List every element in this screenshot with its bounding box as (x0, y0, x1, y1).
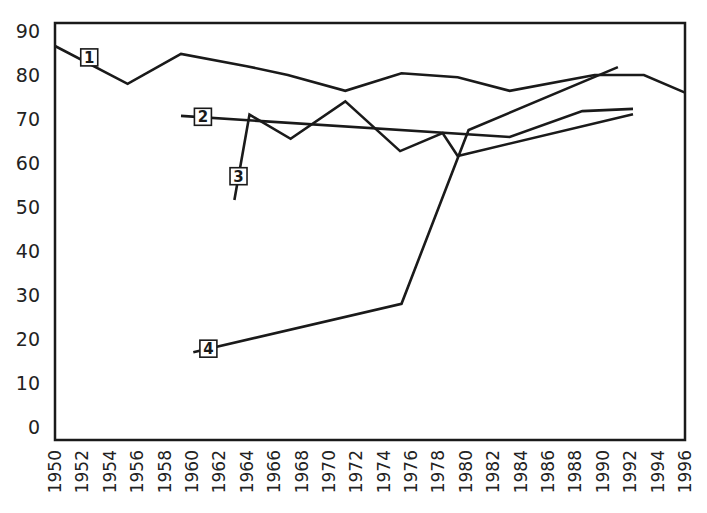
y-tick-label: 60 (16, 152, 40, 174)
y-tick-label: 10 (16, 372, 40, 394)
label-number: 2 (198, 108, 208, 126)
x-tick-label: 1950 (45, 450, 65, 493)
x-tick-label: 1974 (374, 450, 394, 493)
x-tick-label: 1952 (72, 450, 92, 493)
y-tick-label: 30 (16, 284, 40, 306)
line-chart: 0102030405060708090 19501952195419561958… (0, 0, 707, 513)
x-tick-label: 1956 (127, 450, 147, 493)
x-tick-label: 1980 (456, 450, 476, 493)
y-tick-label: 0 (28, 416, 40, 438)
y-tick-label: 90 (16, 20, 40, 42)
series-line-3 (234, 101, 633, 200)
x-tick-label: 1992 (620, 450, 640, 493)
x-tick-label: 1954 (100, 450, 120, 493)
x-tick-label: 1994 (648, 450, 668, 493)
x-tick-label: 1962 (209, 450, 229, 493)
plot-frame (55, 23, 685, 440)
x-tick-label: 1970 (319, 450, 339, 493)
series-layer (55, 46, 685, 352)
y-tick-label: 50 (16, 196, 40, 218)
x-tick-label: 1976 (401, 450, 421, 493)
x-tick-label: 1960 (182, 450, 202, 493)
series-label-2: 2 (194, 108, 211, 126)
x-axis: 1950195219541956195819601962196419661968… (45, 450, 695, 493)
y-axis: 0102030405060708090 (16, 20, 40, 438)
series-line-1 (55, 46, 685, 93)
label-number: 4 (203, 340, 213, 358)
series-label-1: 1 (81, 49, 98, 67)
x-tick-label: 1972 (346, 450, 366, 493)
x-tick-label: 1988 (565, 450, 585, 493)
x-tick-label: 1964 (237, 450, 257, 493)
x-tick-label: 1982 (483, 450, 503, 493)
series-label-4: 4 (200, 340, 217, 358)
x-tick-label: 1996 (675, 450, 695, 493)
series-label-3: 3 (230, 168, 247, 186)
y-tick-label: 70 (16, 108, 40, 130)
x-tick-label: 1990 (593, 450, 613, 493)
x-tick-label: 1986 (538, 450, 558, 493)
x-tick-label: 1984 (511, 450, 531, 493)
x-tick-label: 1966 (264, 450, 284, 493)
label-number: 3 (233, 168, 243, 186)
series-labels: 1234 (81, 49, 247, 358)
label-number: 1 (84, 49, 94, 67)
x-tick-label: 1968 (292, 450, 312, 493)
series-line-4 (193, 67, 618, 352)
y-tick-label: 80 (16, 64, 40, 86)
x-tick-label: 1978 (428, 450, 448, 493)
y-tick-label: 20 (16, 328, 40, 350)
x-tick-label: 1958 (155, 450, 175, 493)
y-tick-label: 40 (16, 240, 40, 262)
